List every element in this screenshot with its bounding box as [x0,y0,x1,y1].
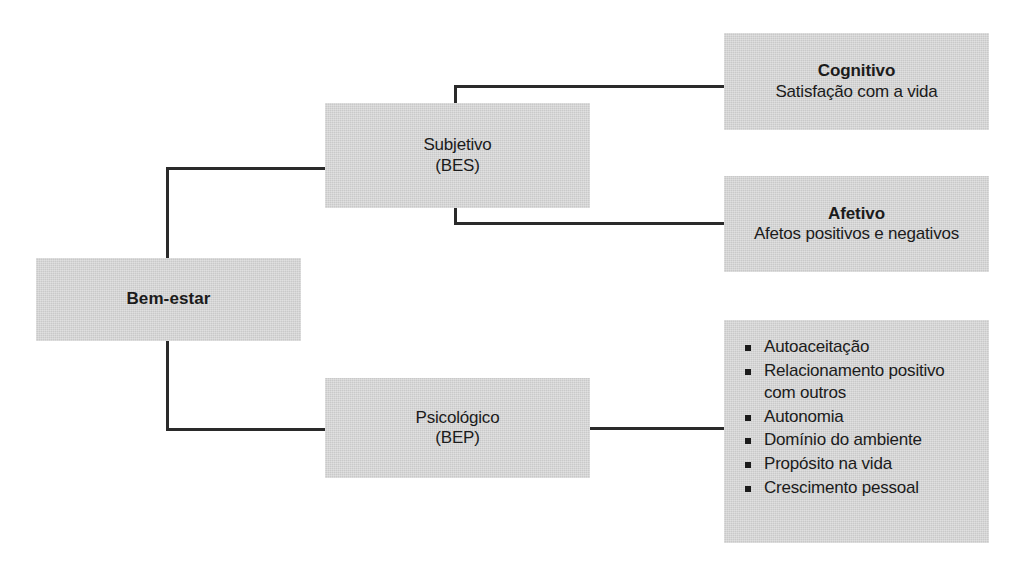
square-bullet-icon [745,438,751,444]
node-cognitivo-description: Satisfação com a vida [775,82,937,102]
connector-root-to-subjective-horizontal [166,167,328,170]
node-bem-estar-label: Bem-estar [126,289,210,309]
connector-root-to-psychological-horizontal [166,428,328,431]
node-afetivo: Afetivo Afetos positivos e negativos [724,176,989,272]
node-afetivo-heading: Afetivo [828,204,885,224]
square-bullet-icon [745,486,751,492]
dimensions-list: AutoaceitaçãoRelacionamento positivo com… [742,336,979,499]
dimension-list-item-label: Propósito na vida [764,454,892,473]
node-psicologico-label: Psicológico [416,408,500,428]
dimension-list-item-label: Autoaceitação [764,337,869,356]
node-dimensoes-bep: AutoaceitaçãoRelacionamento positivo com… [724,320,989,543]
connector-root-to-subjective-vertical [166,167,169,261]
square-bullet-icon [745,415,751,421]
connector-psychological-to-dimensions [587,427,727,430]
diagram-canvas: Bem-estar Subjetivo (BES) Psicológico (B… [0,0,1012,561]
node-subjetivo-acronym: (BES) [435,156,479,176]
node-cognitivo-heading: Cognitivo [818,61,895,81]
node-afetivo-description: Afetos positivos e negativos [754,224,959,244]
dimension-list-item-label: Autonomia [764,407,843,426]
dimension-list-item-label: Domínio do ambiente [764,430,922,449]
node-cognitivo: Cognitivo Satisfação com a vida [724,33,989,130]
node-psicologico-acronym: (BEP) [435,428,479,448]
dimension-list-item-label: Relacionamento positivo com outros [764,361,945,403]
node-psicologico: Psicológico (BEP) [325,378,590,478]
square-bullet-icon [745,345,751,351]
node-bem-estar: Bem-estar [36,258,301,341]
square-bullet-icon [745,369,751,375]
dimension-list-item: Relacionamento positivo com outros [742,360,979,405]
dimension-list-item: Crescimento pessoal [742,477,979,500]
dimension-list-item: Propósito na vida [742,453,979,476]
dimension-list-item: Domínio do ambiente [742,429,979,452]
square-bullet-icon [745,462,751,468]
dimension-list-item-label: Crescimento pessoal [764,478,919,497]
dimension-list-item: Autoaceitação [742,336,979,359]
dimension-list-item: Autonomia [742,406,979,429]
node-subjetivo-label: Subjetivo [423,135,491,155]
connector-subjective-to-cognitive-horizontal [454,85,727,88]
connector-subjective-to-affective-horizontal [454,222,727,225]
node-subjetivo: Subjetivo (BES) [325,103,590,208]
connector-root-to-psychological-vertical [166,338,169,431]
